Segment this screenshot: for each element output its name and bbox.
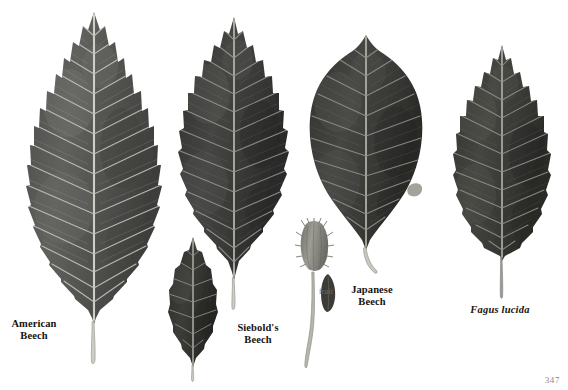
- leaf-damage-notch: [407, 183, 422, 196]
- petiole: [232, 277, 235, 310]
- plate-page: American Beech: [0, 0, 568, 390]
- japanese-beech-leaf-illustration: [300, 32, 430, 292]
- petiole: [91, 321, 95, 364]
- petiole: [500, 258, 502, 298]
- specimen-japanese-beech: [300, 32, 430, 292]
- caption-japanese-beech: Japanese Beech: [341, 284, 403, 308]
- caption-fagus-lucida: Fagus lucida: [463, 304, 537, 316]
- american-beech-leaf-illustration: [14, 8, 174, 368]
- petiole: [363, 247, 377, 273]
- petiole: [192, 365, 194, 382]
- specimen-fagus-lucida: [443, 42, 561, 302]
- fagus-lucida-leaf-illustration: [443, 42, 561, 302]
- caption-american-beech: American Beech: [5, 318, 63, 342]
- specimen-american-beech: [14, 8, 174, 368]
- small-leaf-illustration: [158, 234, 228, 384]
- page-number: 347: [545, 375, 560, 385]
- specimen-siebolds-beech-small-leaf: [158, 234, 228, 384]
- caption-siebolds-beech: Siebold's Beech: [228, 322, 288, 346]
